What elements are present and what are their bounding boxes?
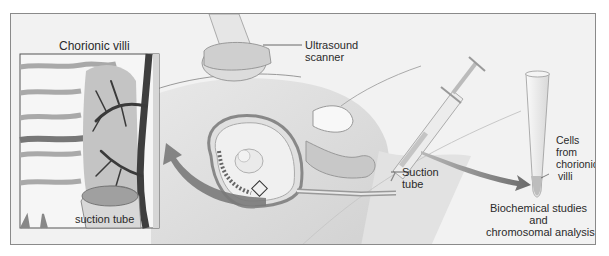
label-cells-line3: chorionic <box>556 158 596 170</box>
label-bio-line3: chromosomal analysis <box>486 226 591 238</box>
label-cells-from-villi: Cells from chorionic villi <box>556 134 596 182</box>
label-chorionic-villi: Chorionic villi <box>59 40 130 52</box>
test-tube-illustration <box>526 71 550 197</box>
label-ultrasound-line1: Ultrasound <box>305 39 358 51</box>
label-cells-line2: from <box>556 146 596 158</box>
label-ultrasound-line2: scanner <box>305 51 358 63</box>
figure-frame: Chorionic villi suction tube Ultrasound … <box>10 13 596 245</box>
label-suction-line2: tube <box>402 178 439 190</box>
label-biochemical-studies: Biochemical studies and chromosomal anal… <box>486 202 591 238</box>
ultrasound-scanner-illustration <box>202 14 302 81</box>
label-cells-line4: villi <box>556 170 596 182</box>
label-suction-tube: Suction tube <box>402 166 439 190</box>
label-ultrasound-scanner: Ultrasound scanner <box>305 39 358 63</box>
label-cells-line1: Cells <box>556 134 596 146</box>
chorionic-villi-inset <box>20 54 159 228</box>
label-suction-line1: Suction <box>402 166 439 178</box>
label-bio-line2: and <box>486 214 591 226</box>
label-suction-tube-inset: suction tube <box>75 213 134 225</box>
label-bio-line1: Biochemical studies <box>486 202 591 214</box>
